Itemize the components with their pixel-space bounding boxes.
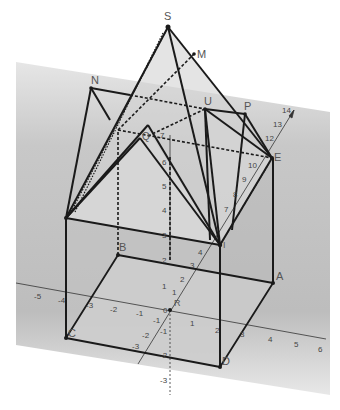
point-N[interactable] (89, 86, 93, 90)
svg-text:7: 7 (224, 205, 229, 214)
svg-text:1: 1 (162, 282, 167, 291)
svg-text:14: 14 (282, 106, 291, 115)
svg-text:13: 13 (273, 120, 282, 129)
svg-text:-3: -3 (86, 301, 94, 310)
diagram-canvas[interactable]: S M N U P E Q I B A C D R -5 -4 -3 -2 -1… (0, 0, 340, 410)
svg-text:5: 5 (162, 182, 167, 191)
svg-text:3: 3 (162, 231, 167, 240)
point-P[interactable] (243, 112, 247, 116)
point-I[interactable] (218, 243, 222, 247)
label-U: U (204, 95, 212, 107)
point-S[interactable] (166, 25, 171, 30)
point-origin[interactable] (168, 308, 172, 312)
svg-text:-3: -3 (160, 376, 168, 385)
svg-text:6: 6 (162, 158, 167, 167)
svg-text:2: 2 (215, 326, 220, 335)
svg-text:1: 1 (190, 319, 195, 328)
label-R: R (174, 298, 181, 308)
geometry-3d-view[interactable]: S M N U P E Q I B A C D R -5 -4 -3 -2 -1… (0, 0, 340, 410)
label-B: B (119, 241, 126, 253)
label-P: P (244, 100, 251, 112)
svg-text:2: 2 (180, 275, 185, 284)
svg-text:7: 7 (160, 131, 165, 140)
svg-text:-2: -2 (160, 351, 168, 360)
label-N: N (91, 74, 99, 86)
svg-text:-4: -4 (58, 296, 66, 305)
point-M[interactable] (192, 52, 196, 56)
point-A[interactable] (271, 281, 275, 285)
label-E: E (274, 151, 281, 163)
label-I: I (223, 240, 226, 250)
plane-fade-left (0, 50, 50, 360)
point-left-top[interactable] (64, 216, 68, 220)
svg-text:-2: -2 (142, 331, 150, 340)
svg-text:8: 8 (233, 190, 238, 199)
svg-text:5: 5 (294, 340, 299, 349)
label-C: C (68, 327, 76, 339)
svg-text:4: 4 (162, 206, 167, 215)
svg-text:-3: -3 (132, 342, 140, 351)
svg-text:6: 6 (318, 345, 323, 354)
point-B[interactable] (116, 253, 120, 257)
svg-text:3: 3 (190, 261, 195, 270)
svg-text:1: 1 (172, 288, 177, 297)
label-D: D (222, 355, 230, 367)
label-A: A (276, 270, 284, 282)
label-M: M (197, 48, 206, 60)
svg-text:2: 2 (162, 256, 167, 265)
svg-text:3: 3 (240, 330, 245, 339)
svg-text:0: 0 (163, 306, 168, 315)
label-S: S (164, 10, 171, 22)
svg-text:-5: -5 (34, 292, 42, 301)
point-U[interactable] (203, 107, 207, 111)
svg-text:12: 12 (265, 134, 274, 143)
svg-text:9: 9 (242, 175, 247, 184)
svg-text:-1: -1 (136, 309, 144, 318)
svg-text:10: 10 (248, 161, 257, 170)
label-Q: Q (142, 131, 150, 142)
svg-text:4: 4 (198, 248, 203, 257)
svg-text:4: 4 (268, 335, 273, 344)
svg-text:-2: -2 (110, 305, 118, 314)
svg-text:-1: -1 (153, 316, 161, 325)
svg-text:-1: -1 (160, 327, 168, 336)
